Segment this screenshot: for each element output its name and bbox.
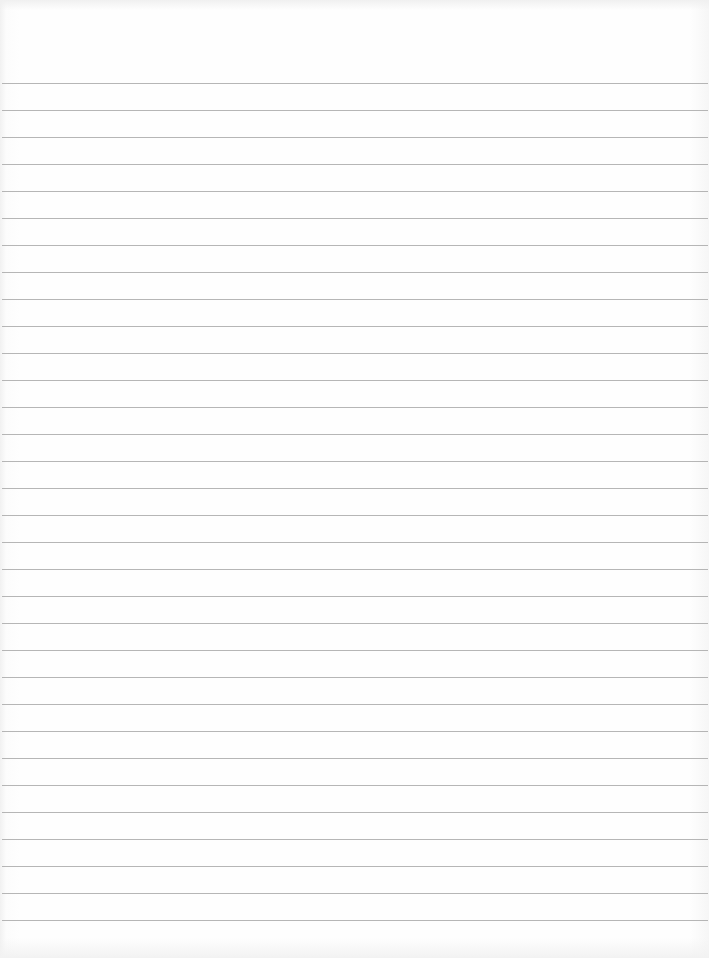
ruled-line — [2, 650, 708, 651]
top-edge-shadow — [0, 0, 709, 10]
ruled-line — [2, 353, 708, 354]
ruled-line — [2, 83, 708, 84]
ruled-line — [2, 461, 708, 462]
bottom-edge-shadow — [0, 938, 709, 958]
ruled-line — [2, 596, 708, 597]
ruled-line — [2, 542, 708, 543]
ruled-line — [2, 785, 708, 786]
ruled-line — [2, 758, 708, 759]
ruled-line — [2, 677, 708, 678]
ruled-line — [2, 164, 708, 165]
ruled-line — [2, 623, 708, 624]
ruled-line — [2, 380, 708, 381]
ruled-line — [2, 434, 708, 435]
ruled-line — [2, 299, 708, 300]
ruled-line — [2, 866, 708, 867]
ruled-line — [2, 191, 708, 192]
ruled-line — [2, 488, 708, 489]
ruled-line — [2, 839, 708, 840]
ruled-line — [2, 272, 708, 273]
ruled-line — [2, 218, 708, 219]
ruled-line — [2, 893, 708, 894]
ruled-line — [2, 245, 708, 246]
ruled-line — [2, 704, 708, 705]
ruled-line — [2, 812, 708, 813]
ruled-line — [2, 110, 708, 111]
ruled-line — [2, 569, 708, 570]
ruled-line — [2, 920, 708, 921]
ruled-line — [2, 515, 708, 516]
lined-paper-sheet — [0, 0, 709, 958]
ruled-line — [2, 731, 708, 732]
ruled-line — [2, 326, 708, 327]
ruled-line — [2, 137, 708, 138]
ruled-line — [2, 407, 708, 408]
